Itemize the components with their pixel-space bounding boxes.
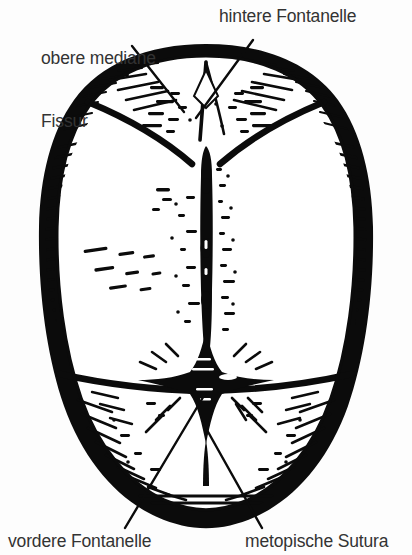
label-superior-median-fissure-line2: Fissur	[41, 111, 156, 132]
label-metopic-suture: metopische Sutura	[245, 531, 388, 552]
label-posterior-fontanelle: hintere Fontanelle	[219, 6, 356, 27]
label-superior-median-fissure-line1: obere mediane	[41, 48, 156, 69]
label-anterior-fontanelle: vordere Fontanelle	[8, 531, 151, 552]
label-superior-median-fissure: obere mediane Fissur	[41, 6, 156, 174]
figure-root: obere mediane Fissur hintere Fontanelle …	[0, 0, 412, 555]
